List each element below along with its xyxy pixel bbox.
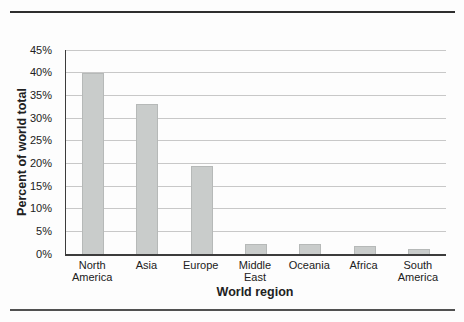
gridline-45 <box>66 50 446 51</box>
y-tick-label-0: 0% <box>0 248 52 261</box>
y-tick-label-40: 40% <box>0 66 52 79</box>
gridline-5 <box>66 231 446 232</box>
gridline-15 <box>66 186 446 187</box>
bar-south-america <box>408 249 430 254</box>
x-tick-label-south-america: South America <box>391 259 445 283</box>
y-tick-label-15: 15% <box>0 180 52 193</box>
gridline-40 <box>66 72 446 73</box>
y-tick-label-30: 30% <box>0 112 52 125</box>
y-tick-label-10: 10% <box>0 202 52 215</box>
bar-africa <box>354 246 376 254</box>
x-tick-label-oceania: Oceania <box>282 259 336 271</box>
y-tick-label-5: 5% <box>0 225 52 238</box>
bar-asia <box>136 104 158 254</box>
y-axis-labels: 0%5%10%15%20%25%30%35%40%45% <box>0 50 58 254</box>
bar-europe <box>191 166 213 254</box>
gridline-20 <box>66 163 446 164</box>
gridline-30 <box>66 118 446 119</box>
x-tick-label-north-america: North America <box>65 259 119 283</box>
bar-chart-figure: Percent of world total 0%5%10%15%20%25%3… <box>0 0 464 322</box>
bar-oceania <box>299 244 321 254</box>
y-tick-label-20: 20% <box>0 157 52 170</box>
top-rule <box>10 11 455 13</box>
x-tick-label-africa: Africa <box>336 259 390 271</box>
y-tick-label-25: 25% <box>0 134 52 147</box>
y-tick-label-45: 45% <box>0 44 52 57</box>
x-tick-label-middle-east: Middle East <box>228 259 282 283</box>
plot-area <box>65 50 446 256</box>
y-tick-label-35: 35% <box>0 89 52 102</box>
gridline-25 <box>66 140 446 141</box>
gridline-35 <box>66 95 446 96</box>
x-axis-title: World region <box>217 285 294 299</box>
x-tick-label-europe: Europe <box>174 259 228 271</box>
x-tick-label-asia: Asia <box>119 259 173 271</box>
bar-middle-east <box>245 244 267 254</box>
bar-north-america <box>82 73 104 254</box>
x-axis-labels: North AmericaAsiaEuropeMiddle EastOceani… <box>65 259 445 285</box>
gridline-10 <box>66 208 446 209</box>
bottom-rule <box>10 309 455 311</box>
